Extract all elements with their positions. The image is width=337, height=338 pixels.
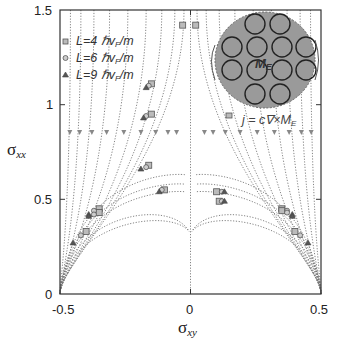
flow-arrow-icon	[104, 130, 109, 135]
marker-circle	[78, 233, 83, 238]
marker-square	[180, 22, 186, 28]
marker-square	[214, 189, 220, 195]
legend-circle-icon	[63, 56, 68, 61]
edge-current-left-arc	[212, 45, 216, 80]
marker-circle	[298, 233, 303, 238]
marker-circle	[285, 210, 290, 215]
marker-square	[279, 208, 285, 214]
inset-magnetization-diagram: ME j = c∇×ME	[212, 12, 319, 128]
legend-square-icon	[63, 39, 68, 44]
flow-diagram-chart: ME j = c∇×ME 1.5 1 0.5 0 -0.5 0 0.5 σxx …	[0, 0, 337, 338]
flow-arrow-icon	[138, 130, 143, 135]
dome-flow-line	[192, 221, 321, 294]
x-axis-label: σxy	[178, 318, 197, 338]
flow-arrow-icon	[287, 130, 292, 135]
marker-triangle	[138, 166, 144, 171]
x-tick-neg0.5: -0.5	[52, 302, 74, 317]
dome-flow-line	[60, 184, 185, 294]
flow-arrow-icon	[211, 130, 216, 135]
dome-flow-line	[196, 191, 321, 294]
legend-triangle-icon	[63, 72, 69, 77]
x-tick-0: 0	[186, 302, 193, 317]
y-tick-0: 0	[45, 287, 52, 302]
y-tick-0.5: 0.5	[34, 192, 52, 207]
current-equation: j = c∇×ME	[240, 113, 297, 128]
dome-flow-line	[60, 221, 189, 294]
y-tick-1: 1	[46, 97, 53, 112]
flow-arrow-icon	[272, 130, 277, 135]
marker-circle	[144, 165, 149, 170]
marker-square	[193, 22, 199, 28]
marker-triangle	[305, 240, 311, 245]
marker-square	[148, 111, 154, 117]
legend-label-L6: L=6 ℏvF/m	[76, 51, 134, 66]
dome-flow-line	[196, 184, 321, 294]
legend: L=4 ℏvF/m L=6 ℏvF/m L=9 ℏvF/m	[63, 34, 134, 83]
marker-square	[96, 210, 102, 216]
legend-label-L4: L=4 ℏvF/m	[76, 34, 134, 49]
marker-circle	[91, 212, 96, 217]
y-tick-1.5: 1.5	[34, 3, 52, 18]
flow-arrow-icon	[89, 130, 94, 135]
legend-label-L9: L=9 ℏvF/m	[76, 68, 134, 83]
flow-arrow-icon	[309, 130, 314, 135]
y-axis-label: σxx	[7, 140, 26, 160]
flow-arrow-icon	[165, 130, 170, 135]
flow-arrow-icon	[67, 130, 72, 135]
marker-square	[292, 229, 298, 235]
flow-arrow-icon	[174, 130, 179, 135]
flow-arrow-icon	[255, 130, 260, 135]
marker-square	[83, 229, 89, 235]
flow-arrow-icon	[153, 130, 158, 135]
flow-arrow-icon	[121, 130, 126, 135]
flow-arrow-icon	[238, 130, 243, 135]
marker-triangle	[70, 240, 76, 245]
flow-arrow-icon	[202, 130, 207, 135]
dome-flow-line	[60, 191, 185, 294]
eq-marker	[226, 113, 232, 118]
flow-line	[60, 10, 70, 294]
x-tick-0.5: 0.5	[310, 302, 328, 317]
flow-arrow-icon	[223, 130, 228, 135]
